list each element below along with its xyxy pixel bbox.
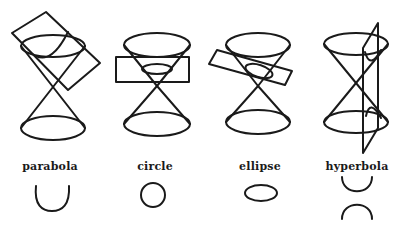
label-circle: circle <box>137 160 173 173</box>
parabola-cone-figure <box>12 12 100 140</box>
cone-side <box>324 44 356 83</box>
label-hyperbola: hyperbola <box>325 160 388 173</box>
diagram-canvas <box>0 0 402 235</box>
lower-cone-rim <box>124 112 190 136</box>
lower-cone-rim <box>21 116 85 140</box>
upper-cone-rim <box>226 33 290 57</box>
cone-side <box>157 45 190 86</box>
cone-side <box>226 45 258 86</box>
circle-shape <box>141 183 165 207</box>
cone-side <box>21 46 53 87</box>
cutting-plane <box>209 50 292 85</box>
parabola-shape <box>36 186 69 211</box>
upper-cone-rim <box>124 33 190 57</box>
hyperbola-lower-branch <box>342 205 372 219</box>
cone-side <box>356 44 388 83</box>
ellipse-shape <box>245 185 277 201</box>
conic-sections-diagram: parabola circle ellipse hyperbola <box>0 0 402 235</box>
circle-cone-figure <box>116 33 190 136</box>
label-ellipse: ellipse <box>239 160 281 173</box>
hyperbola-upper-branch <box>342 177 372 191</box>
label-parabola: parabola <box>22 160 78 173</box>
hyperbola-cone-figure <box>324 23 388 153</box>
circle-section-curve <box>142 64 172 74</box>
ellipse-cone-figure <box>209 33 292 134</box>
cone-side <box>124 45 157 86</box>
lower-cone-rim <box>226 110 290 134</box>
